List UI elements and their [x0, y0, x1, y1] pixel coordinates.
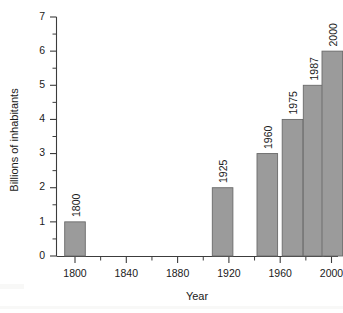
x-tick-label: 1880 — [166, 267, 190, 279]
y-axis: 7 6 5 4 3 2 1 0 — [39, 10, 56, 261]
bar-2000 — [322, 51, 343, 256]
bar-label-1975: 1975 — [287, 91, 299, 115]
y-axis-minor-ticks — [53, 34, 57, 239]
population-bar-chart: 7 6 5 4 3 2 1 0 — [0, 0, 343, 313]
y-tick-label: 4 — [39, 112, 45, 124]
y-tick-label: 1 — [39, 215, 45, 227]
x-axis-minor-ticks — [101, 257, 306, 261]
bar-1960 — [257, 154, 278, 256]
scan-artifact — [0, 284, 24, 289]
x-tick-label: 2000 — [320, 267, 343, 279]
x-tick-label: 1800 — [63, 267, 87, 279]
x-tick-label: 1920 — [217, 267, 241, 279]
y-tick-label: 0 — [39, 249, 45, 261]
y-tick-label: 2 — [39, 180, 45, 192]
bar-label-1987: 1987 — [308, 57, 320, 81]
y-tick-label: 3 — [39, 146, 45, 158]
y-axis-tick-labels: 7 6 5 4 3 2 1 0 — [39, 10, 45, 261]
bar-1975 — [282, 119, 303, 256]
x-axis-tick-labels: 1800 1840 1880 1920 1960 2000 — [63, 267, 343, 279]
bar-label-1800: 1800 — [70, 193, 82, 217]
y-axis-title: Billions of inhabitants — [8, 88, 20, 192]
chart-canvas: 7 6 5 4 3 2 1 0 — [0, 0, 343, 313]
y-tick-label: 6 — [39, 44, 45, 56]
bar-1800 — [65, 222, 86, 256]
y-tick-label: 7 — [39, 10, 45, 22]
x-axis-title: Year — [186, 290, 209, 302]
bar-1925 — [212, 188, 233, 256]
bar-label-2000: 2000 — [327, 23, 339, 47]
bar-label-1960: 1960 — [262, 125, 274, 149]
x-axis: 1800 1840 1880 1920 1960 2000 — [57, 257, 343, 280]
scan-artifact — [0, 306, 343, 309]
bar-1987 — [303, 85, 324, 256]
y-tick-label: 5 — [39, 78, 45, 90]
bar-series — [65, 51, 343, 256]
bar-label-1925: 1925 — [217, 159, 229, 183]
x-tick-label: 1960 — [269, 267, 293, 279]
x-tick-label: 1840 — [115, 267, 139, 279]
